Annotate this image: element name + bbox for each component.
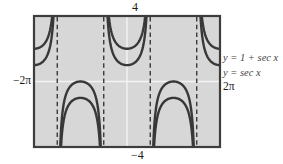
legend-entry-sec: y = sec x bbox=[223, 66, 278, 81]
x-min-label: −2π bbox=[2, 74, 31, 86]
x-max-label: 2π bbox=[223, 80, 235, 92]
plot-area bbox=[0, 0, 283, 164]
secant-graph-figure: 4 −4 −2π 2π y = 1 + sec x y = sec x bbox=[0, 0, 283, 164]
legend-entry-one-plus-sec: y = 1 + sec x bbox=[223, 51, 278, 66]
y-min-label: −4 bbox=[131, 149, 144, 161]
y-max-label: 4 bbox=[132, 1, 138, 13]
legend: y = 1 + sec x y = sec x bbox=[223, 51, 278, 80]
